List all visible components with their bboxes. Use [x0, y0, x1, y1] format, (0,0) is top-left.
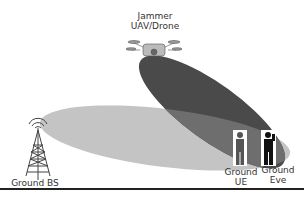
jammer-label-line2: UAV/Drone	[128, 21, 182, 31]
eve-person-icon	[261, 130, 276, 166]
jammer-label: Jammer UAV/Drone	[128, 11, 182, 31]
bs-label: Ground BS	[10, 178, 60, 188]
jammer-label-line1: Jammer	[128, 11, 182, 21]
ue-person-icon	[233, 130, 247, 166]
eve-label-line1: Ground	[256, 165, 300, 175]
eve-label-line2: Eve	[256, 175, 300, 185]
bottom-divider	[0, 188, 304, 190]
eve-label: Ground Eve	[256, 165, 300, 185]
